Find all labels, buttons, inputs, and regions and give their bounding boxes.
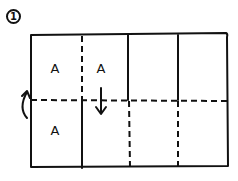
dashed-line-col2-bottom — [129, 101, 130, 167]
folding-diagram — [0, 0, 238, 181]
panel-label-a-bottom-left: A — [51, 124, 60, 137]
panel-label-a-top-left: A — [51, 62, 60, 75]
curved-arrow-icon — [22, 91, 30, 118]
dashed-line-center-horizontal — [31, 100, 227, 101]
panel-label-a-top-second: A — [97, 62, 106, 75]
